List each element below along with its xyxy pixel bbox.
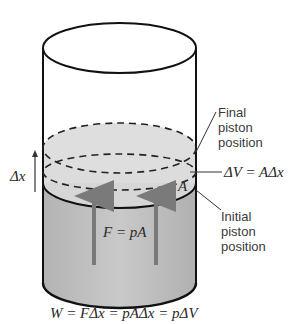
svg-text:piston: piston bbox=[218, 120, 253, 135]
piston-work-diagram: Δx A F = pA Final piston position ΔV = A… bbox=[0, 0, 303, 324]
force-label: F = pA bbox=[102, 224, 147, 240]
final-piston-label: Final piston position bbox=[218, 105, 263, 150]
initial-piston-label: Initial piston position bbox=[221, 209, 266, 254]
svg-text:position: position bbox=[221, 239, 266, 254]
delta-x-label: Δx bbox=[9, 168, 26, 184]
svg-text:piston: piston bbox=[221, 224, 256, 239]
svg-text:position: position bbox=[218, 135, 263, 150]
svg-text:Final: Final bbox=[218, 105, 246, 120]
delta-v-label: ΔV = AΔx bbox=[223, 164, 284, 180]
work-equation: W = FΔx = pAΔx = pΔV bbox=[50, 305, 199, 321]
svg-text:Initial: Initial bbox=[221, 209, 251, 224]
delta-x-indicator: Δx bbox=[9, 150, 38, 192]
cylinder-top-rim bbox=[43, 23, 196, 73]
initial-leader bbox=[196, 190, 221, 210]
area-label: A bbox=[177, 178, 188, 194]
final-leader bbox=[196, 112, 216, 152]
